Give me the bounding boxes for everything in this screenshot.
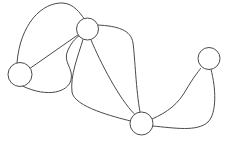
node-right xyxy=(198,48,220,70)
node-top-middle xyxy=(77,18,99,40)
canvas-background xyxy=(0,0,227,146)
node-bottom-middle xyxy=(130,112,153,135)
node-left xyxy=(8,63,32,87)
graph-diagram xyxy=(0,0,227,146)
